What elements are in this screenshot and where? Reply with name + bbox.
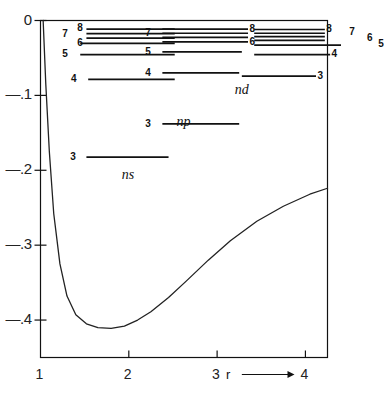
energy-levels <box>80 29 341 157</box>
orbital-group-label: ns <box>122 167 134 183</box>
y-tick-label: —.2 <box>5 160 31 177</box>
level-number-label: 8 <box>326 23 332 34</box>
y-tick-label: —.1 <box>5 85 31 102</box>
orbital-group-label: np <box>177 114 191 130</box>
x-tick-marks <box>129 351 306 358</box>
r-arrow-head <box>288 371 295 378</box>
level-number-label: 3 <box>70 151 76 162</box>
level-number-label: 7 <box>349 26 355 37</box>
level-number-label: 5 <box>62 48 68 59</box>
level-number-label: 8 <box>249 23 255 34</box>
x-axis-label: r <box>226 367 230 382</box>
level-number-label: 6 <box>77 37 83 48</box>
level-number-label: 6 <box>249 36 255 47</box>
level-number-label: 8 <box>77 22 83 33</box>
plot-frame <box>41 21 328 358</box>
level-number-label: 4 <box>71 73 77 84</box>
potential-energy-curve <box>43 21 327 329</box>
x-tick-label: 1 <box>36 366 44 382</box>
level-number-label: 3 <box>317 70 323 81</box>
x-tick-label: 4 <box>300 366 308 382</box>
x-axis-arrow <box>242 371 295 378</box>
x-tick-label: 3 <box>212 366 220 382</box>
y-tick-label: —.4 <box>5 310 31 327</box>
axes-frame <box>41 21 328 358</box>
level-number-label: 4 <box>332 48 338 59</box>
level-number-label: 4 <box>145 67 151 78</box>
level-number-label: 6 <box>367 32 373 43</box>
y-tick-label: —.3 <box>5 235 31 252</box>
level-number-label: 7 <box>145 27 151 38</box>
level-number-label: 3 <box>145 118 151 129</box>
level-number-label: 7 <box>62 28 68 39</box>
y-tick-label: 0 <box>24 11 32 28</box>
x-tick-label: 2 <box>124 366 132 382</box>
level-number-label: 5 <box>145 46 151 57</box>
orbital-group-label: nd <box>235 82 249 98</box>
potential-curve <box>43 21 327 329</box>
level-number-label: 5 <box>378 38 384 49</box>
